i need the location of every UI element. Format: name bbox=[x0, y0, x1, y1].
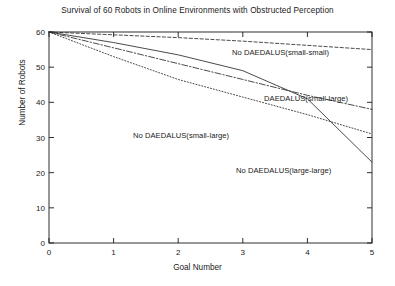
series-line bbox=[49, 32, 372, 109]
chart-container: Survival of 60 Robots in Online Environm… bbox=[0, 0, 395, 286]
series-line bbox=[49, 32, 372, 50]
series-paths bbox=[49, 32, 372, 162]
axes-frame bbox=[49, 32, 372, 243]
series-line bbox=[49, 32, 372, 162]
series-line bbox=[49, 32, 372, 134]
axis-tickmarks bbox=[49, 32, 372, 243]
plot-svg bbox=[0, 0, 395, 286]
